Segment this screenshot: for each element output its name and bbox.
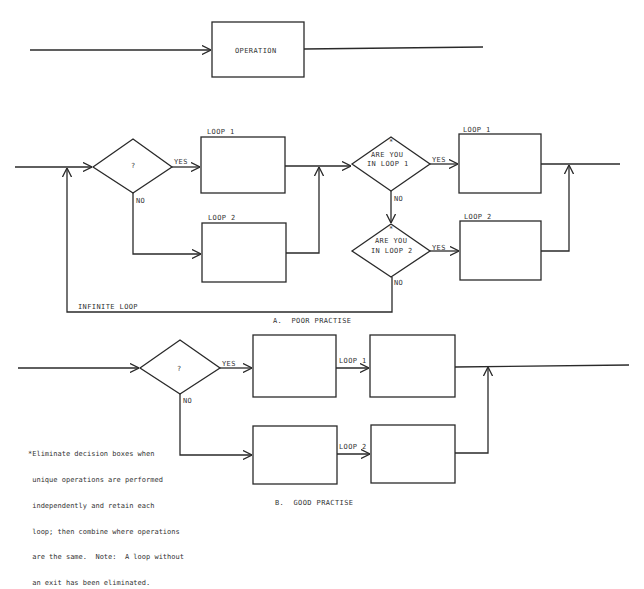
footnote-line: an exit has been eliminated. (28, 579, 208, 588)
check1-yes-label: YES (432, 156, 446, 164)
check2-no-label: NO (394, 279, 403, 287)
footnote-line: *Eliminate decision boxes when (28, 450, 208, 459)
output-line (304, 47, 483, 49)
poor-practise-diagram: ? YES NO LOOP 1 LOOP 2 * ARE YOU IN LOOP… (15, 126, 620, 325)
poor-no-label: NO (136, 197, 145, 205)
poor-caption: A. POOR PRACTISE (273, 317, 351, 325)
footnote-line: unique operations are performed (28, 476, 208, 485)
operation-diagram: OPERATION (30, 22, 483, 77)
good-loop1-label: LOOP 1 (339, 357, 367, 365)
poor-loop2-label: LOOP 2 (208, 214, 236, 222)
check1-line2: IN LOOP 1 (367, 160, 409, 168)
good-output-line (455, 365, 629, 367)
infinite-loop-label: INFINITE LOOP (78, 303, 138, 311)
good-merge-arrow (455, 367, 488, 453)
check2-line2: IN LOOP 2 (371, 247, 413, 255)
footnote-line: are the same. Note: A loop without (28, 553, 208, 562)
footnote: *Eliminate decision boxes when unique op… (28, 433, 208, 589)
footnote-line: loop; then combine where operations (28, 528, 208, 537)
poor-decision-label: ? (131, 162, 136, 170)
good-loop2-box-a (253, 426, 337, 484)
good-loop2-label: LOOP 2 (339, 443, 367, 451)
good-yes-label: YES (222, 360, 236, 368)
good-caption: B. GOOD PRACTISE (275, 499, 353, 507)
poor-out-loop2-box (460, 221, 541, 280)
check1-line1: ARE YOU (371, 151, 403, 159)
good-no-label: NO (183, 397, 192, 405)
good-loop1-box-b (370, 335, 455, 397)
good-loop2-box-b (371, 425, 455, 483)
check1-star: * (389, 138, 394, 146)
check1-no-label: NO (394, 195, 403, 203)
check2-line1: ARE YOU (375, 237, 407, 245)
operation-label: OPERATION (235, 47, 277, 55)
poor-loop1-label: LOOP 1 (207, 128, 235, 136)
footnote-line: independently and retain each (28, 502, 208, 511)
good-decision-label: ? (177, 365, 182, 373)
poor-merge-arrow (286, 167, 319, 253)
poor-output-merge-arrow (541, 165, 569, 251)
poor-yes-label: YES (174, 158, 188, 166)
poor-out-loop2-label: LOOP 2 (464, 213, 492, 221)
poor-out-loop1-box (459, 134, 541, 193)
poor-loop2-box (202, 223, 286, 282)
poor-out-loop1-label: LOOP 1 (463, 126, 491, 134)
good-loop1-box-a (253, 335, 336, 397)
check2-star: * (389, 225, 394, 233)
poor-loop1-box (201, 137, 285, 193)
